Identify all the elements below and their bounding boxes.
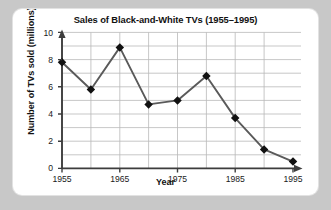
y-tick-label-2: 2 bbox=[39, 136, 53, 146]
y-tick-label-4: 4 bbox=[39, 109, 53, 119]
plot-area: 10 8 6 4 2 0 1955 1965 1975 1985 1995 Nu… bbox=[13, 9, 318, 195]
y-tick-label-8: 8 bbox=[39, 55, 53, 65]
y-tick-label-10: 10 bbox=[39, 28, 53, 38]
line-chart-svg bbox=[13, 9, 318, 195]
chart-card: Sales of Black-and-White TVs (1955–1995) bbox=[13, 9, 318, 195]
y-axis-line bbox=[58, 30, 65, 169]
y-tick-label-0: 0 bbox=[39, 163, 53, 173]
y-tick-label-6: 6 bbox=[39, 82, 53, 92]
x-axis-line bbox=[62, 165, 303, 172]
y-axis-title: Number of TVs sold (millions) bbox=[26, 9, 36, 136]
horizontal-gridlines bbox=[62, 32, 301, 154]
x-axis-title: Year bbox=[13, 177, 318, 187]
